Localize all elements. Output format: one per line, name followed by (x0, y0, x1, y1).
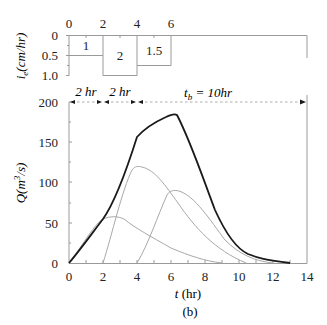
duration-label-2: 2 hr (109, 84, 131, 99)
hydro-xtick-10: 10 (233, 269, 246, 284)
rain-bar-1-label: 1 (83, 38, 90, 53)
hydro-xtick-8: 8 (202, 269, 209, 284)
hyeto-xtick-2: 2 (100, 16, 107, 31)
hydro-xtick-6: 6 (168, 269, 175, 284)
arrow-left-icon (104, 100, 109, 104)
hydro-x-axis-label: t (hr) (175, 286, 201, 301)
hydro-ytick-50: 50 (45, 216, 58, 231)
hydro-xtick-12: 12 (267, 269, 280, 284)
hyeto-ytick-1.0: 1.0 (42, 68, 58, 83)
hyeto-frame (69, 36, 307, 59)
hydro-ytick-0: 0 (52, 256, 59, 271)
hydro-xtick-14: 14 (301, 269, 315, 284)
component-hydrograph-3 (137, 190, 273, 263)
hydro-ytick-200: 200 (39, 95, 59, 110)
base-time-label: tb = 10hr (184, 85, 233, 102)
rain-bar-2-label: 2 (117, 48, 124, 63)
arrow-right-icon (131, 100, 136, 104)
arrow-left-icon (70, 100, 75, 104)
hyeto-xtick-0: 0 (66, 16, 73, 31)
hydrograph-figure: 0 2 4 6 0 0.5 1.0 1 2 1.5 ie(cm/hr) (0, 0, 327, 325)
arrow-right-icon (97, 100, 102, 104)
arrow-right-icon (300, 100, 306, 105)
hydro-ytick-150: 150 (39, 135, 59, 150)
duration-label-1: 2 hr (75, 84, 97, 99)
hydro-ytick-100: 100 (39, 175, 59, 190)
hyetograph-panel: 0 2 4 6 0 0.5 1.0 1 2 1.5 ie(cm/hr) (13, 16, 307, 83)
rain-bar-3-label: 1.5 (146, 43, 162, 58)
arrow-left-icon (138, 100, 143, 104)
total-hydrograph (69, 114, 290, 263)
component-hydrograph-1 (69, 217, 222, 263)
hydro-xtick-2: 2 (100, 269, 107, 284)
hydrograph-panel: 200 150 100 50 0 0 2 4 6 8 10 12 14 t (h… (12, 84, 314, 319)
figure-sublabel: (b) (182, 304, 197, 319)
hydro-xtick-0: 0 (66, 269, 73, 284)
hyeto-y-axis-label: ie(cm/hr) (13, 33, 30, 80)
component-hydrograph-2 (103, 166, 246, 263)
hyeto-ytick-0.5: 0.5 (42, 48, 58, 63)
hydro-axes (69, 95, 307, 264)
hyeto-xtick-6: 6 (168, 16, 175, 31)
hyeto-ytick-0: 0 (52, 28, 59, 43)
duration-annotations: 2 hr 2 hr tb = 10hr (70, 84, 306, 105)
hydro-y-axis-label: Q(m3/s) (12, 163, 28, 204)
hyeto-xtick-4: 4 (134, 16, 141, 31)
hydro-xtick-4: 4 (134, 269, 141, 284)
